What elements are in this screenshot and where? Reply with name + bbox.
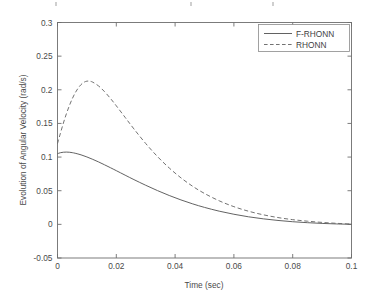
y-axis-title: Evolution of Angular Velocity (rad/s) [18,74,28,205]
legend-label-rhonn: RHONN [296,40,326,50]
y-tick-label: 0.25 [36,51,53,61]
y-tick-label: 0.15 [36,118,53,128]
x-axis-title: Time (sec) [185,280,224,290]
x-tick-label: 0.02 [108,261,125,271]
x-tick-label: 0.04 [167,261,184,271]
y-tick-label: 0.3 [41,18,53,28]
y-tick-label: -0.05 [34,253,53,263]
x-tick-label: 0 [55,261,60,271]
figure-container: 00.020.040.060.080.1 -0.0500.050.10.150.… [0,0,371,295]
x-tick-label: 0.06 [226,261,243,271]
legend-label-f-rhonn: F-RHONN [296,29,334,39]
angular-velocity-line-chart: 00.020.040.060.080.1 -0.0500.050.10.150.… [0,0,371,295]
y-tick-label: 0.05 [36,186,53,196]
x-tick-label: 0.08 [285,261,302,271]
legend[interactable]: F-RHONN RHONN [259,25,350,52]
y-tick-label: 0 [48,219,53,229]
y-tick-label: 0.2 [41,85,53,95]
y-tick-label: 0.1 [41,152,53,162]
x-tick-label: 0.1 [346,261,358,271]
